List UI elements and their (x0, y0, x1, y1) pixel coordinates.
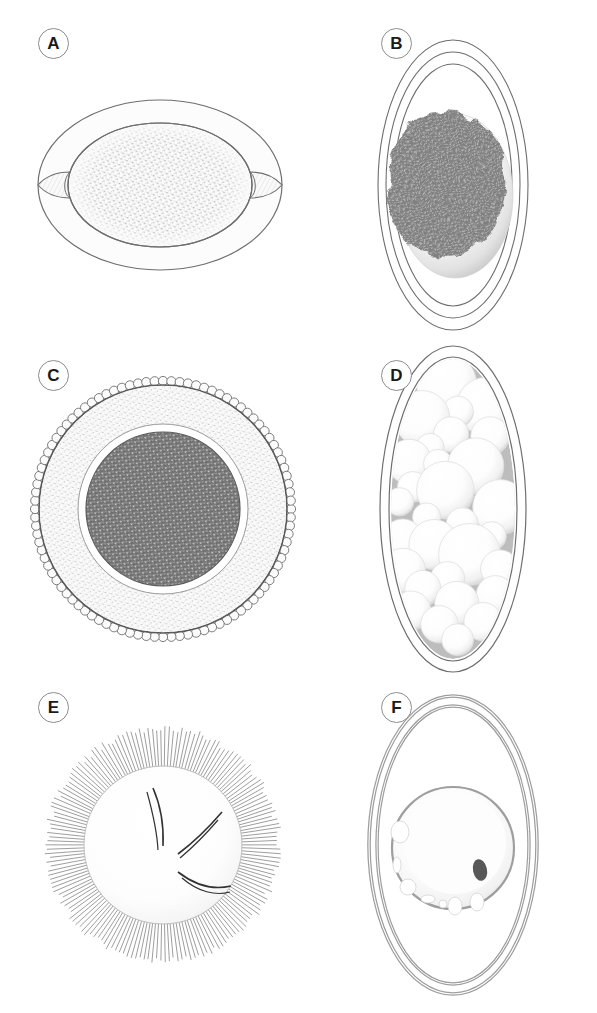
panel-c (0, 360, 320, 660)
panel-b-illustration (300, 20, 597, 360)
radial-spine (179, 921, 186, 956)
radial-spine (112, 915, 129, 948)
radial-spine (165, 923, 166, 962)
radial-spine (236, 803, 272, 817)
inner-mass-stipple-a (69, 124, 251, 246)
vacuole (421, 895, 435, 903)
figure-canvas: A (0, 0, 597, 1013)
radial-spine (54, 798, 91, 814)
radial-spine (208, 751, 229, 781)
radial-spine (50, 853, 85, 857)
radial-spine (47, 832, 85, 836)
radial-spine (241, 851, 281, 854)
radial-spine (208, 909, 229, 939)
panel-label-e: E (38, 692, 69, 723)
radial-spine (198, 740, 216, 775)
panel-label-b: B (381, 28, 412, 59)
panel-b (300, 20, 597, 360)
radial-spine (236, 873, 270, 886)
radial-spine (153, 729, 156, 767)
radial-spine (161, 730, 162, 767)
radial-spine (232, 792, 263, 808)
panel-label-c: C (38, 360, 69, 391)
radial-spine (118, 735, 134, 773)
radial-spine (167, 923, 169, 961)
radial-spine (241, 848, 280, 849)
vacuole (391, 821, 409, 843)
radial-spine (224, 775, 252, 797)
radial-spine (170, 923, 173, 958)
radial-spine (170, 731, 173, 768)
radial-spine (119, 917, 133, 952)
radial-spine (47, 848, 85, 849)
granular-blob-b (387, 112, 507, 256)
radial-spine (148, 922, 153, 959)
radial-spine (240, 823, 279, 830)
panel-c-illustration (0, 360, 320, 660)
vacuole (439, 900, 447, 908)
blastomere (442, 624, 474, 656)
panel-label-f: F (381, 692, 412, 723)
radial-spine (195, 916, 212, 954)
radial-spine (167, 726, 169, 767)
radial-spine (51, 828, 86, 833)
radial-spine (98, 909, 118, 938)
radial-spine (224, 893, 252, 915)
radial-spine (217, 760, 244, 789)
radial-spine (157, 731, 159, 768)
radial-spine (190, 736, 203, 772)
radial-spine (71, 891, 100, 912)
radial-spine (152, 923, 156, 963)
panel-f (300, 680, 597, 1013)
radial-spine (140, 921, 147, 957)
radial-spine (203, 748, 221, 778)
panel-a (0, 80, 320, 300)
radial-spine (64, 886, 96, 906)
radial-spine (45, 851, 85, 854)
radial-spine (161, 923, 162, 961)
radial-spine (59, 879, 93, 895)
inner-sphere-core-f (404, 792, 506, 894)
radial-spine (139, 729, 147, 769)
panel-e-illustration (0, 700, 320, 1000)
radial-spine (51, 870, 89, 883)
radial-spine (48, 841, 86, 842)
radial-spine (205, 749, 224, 779)
panel-a-illustration (0, 80, 320, 300)
radial-spine (240, 859, 279, 866)
vacuole (470, 893, 484, 911)
radial-spine (157, 923, 159, 958)
radial-spine (232, 881, 267, 899)
panel-d-illustration (300, 340, 597, 680)
radial-spine (50, 824, 86, 831)
radial-spine (226, 777, 256, 799)
panel-d (300, 340, 597, 680)
panel-e (0, 700, 320, 1000)
panel-label-d: D (381, 360, 412, 391)
radial-spine (49, 837, 85, 840)
radial-spine (173, 922, 178, 961)
radial-spine (203, 912, 223, 946)
vacuole (400, 879, 416, 895)
vacuole (393, 857, 401, 873)
radial-spine (51, 859, 87, 866)
radial-spine (144, 922, 150, 959)
radial-spine (148, 728, 153, 768)
radial-spine (164, 726, 165, 767)
radial-spine (173, 732, 178, 768)
dark-granular-core-c (86, 432, 240, 586)
panel-label-a: A (38, 28, 69, 59)
radial-spine (241, 840, 277, 841)
radial-spine (241, 836, 277, 839)
radial-spine (176, 728, 183, 768)
radial-spine (66, 785, 97, 804)
panel-f-illustration (300, 680, 597, 1013)
vacuole (448, 897, 462, 915)
radial-spine (176, 922, 182, 959)
